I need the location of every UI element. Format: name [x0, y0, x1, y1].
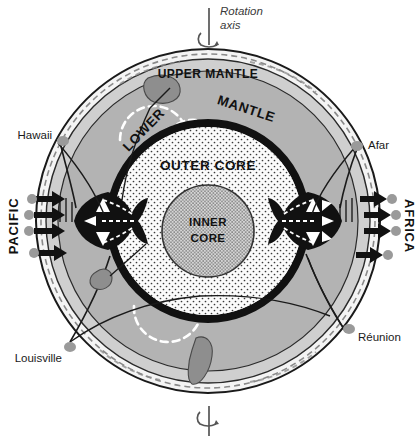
label-inner-core-line2: CORE	[191, 232, 226, 244]
pacific-dot-3	[24, 226, 34, 236]
label-upper-mantle: UPPER MANTLE	[158, 67, 259, 81]
rotation-arrow-icon-top	[198, 33, 217, 47]
rotation-arrowhead-top	[214, 41, 219, 46]
africa-dot-4	[383, 250, 393, 260]
rotation-axis-label-line1: Rotation	[220, 5, 263, 17]
rotation-axis-top: Rotation axis	[198, 5, 263, 47]
pacific-dot-4	[29, 248, 39, 258]
rotation-axis-bottom	[197, 406, 219, 436]
label-reunion: Réunion	[358, 331, 401, 343]
label-outer-core: OUTER CORE	[160, 158, 256, 173]
marker-afar	[351, 141, 363, 151]
africa-dot-2	[391, 210, 401, 220]
marker-louisville	[64, 342, 76, 352]
rotation-arrowhead-bottom	[214, 420, 219, 425]
pacific-dot-1	[27, 194, 37, 204]
africa-arrow-dots	[383, 194, 401, 260]
label-louisville: Louisville	[15, 352, 62, 364]
marker-hawaii	[57, 136, 69, 146]
label-afar: Afar	[368, 139, 389, 151]
label-africa: AFRICA	[402, 199, 417, 253]
earth-cross-section-diagram: Rotation axis	[0, 0, 417, 442]
africa-dot-1	[387, 194, 397, 204]
earth-diagram-svg: Rotation axis	[0, 0, 417, 442]
rotation-axis-label-line2: axis	[220, 19, 241, 31]
rotation-arrow-icon-bottom	[197, 412, 216, 426]
label-hawaii: Hawaii	[17, 129, 52, 141]
label-pacific: PACIFIC	[6, 198, 21, 255]
pacific-dot-2	[24, 210, 34, 220]
label-inner-core-line1: INNER	[189, 216, 227, 228]
inner-core-region	[162, 185, 254, 277]
marker-reunion	[343, 324, 355, 334]
africa-dot-3	[391, 226, 401, 236]
